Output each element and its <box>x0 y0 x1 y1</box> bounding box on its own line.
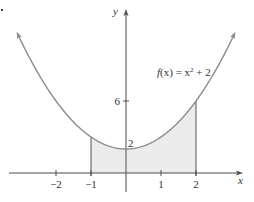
parabola-figure: −2−112 6 x y 2 f(x) = x2 + 2 <box>0 0 254 202</box>
x-tick-label: 1 <box>158 178 164 190</box>
figure-marker <box>1 9 3 11</box>
function-label: f(x) = x2 + 2 <box>157 66 211 79</box>
y-axis-label: y <box>112 5 118 17</box>
shaded-area <box>91 101 196 173</box>
x-tick-label: −2 <box>50 178 62 190</box>
x-axis-label: x <box>237 174 243 186</box>
x-tick-label: −1 <box>85 178 97 190</box>
y-intercept-label: 2 <box>128 137 134 149</box>
function-label-arg: (x) = x <box>160 66 191 79</box>
x-tick-label: 2 <box>193 178 199 190</box>
y-ticks: 6 <box>115 95 130 107</box>
y-tick-label: 6 <box>115 95 121 107</box>
